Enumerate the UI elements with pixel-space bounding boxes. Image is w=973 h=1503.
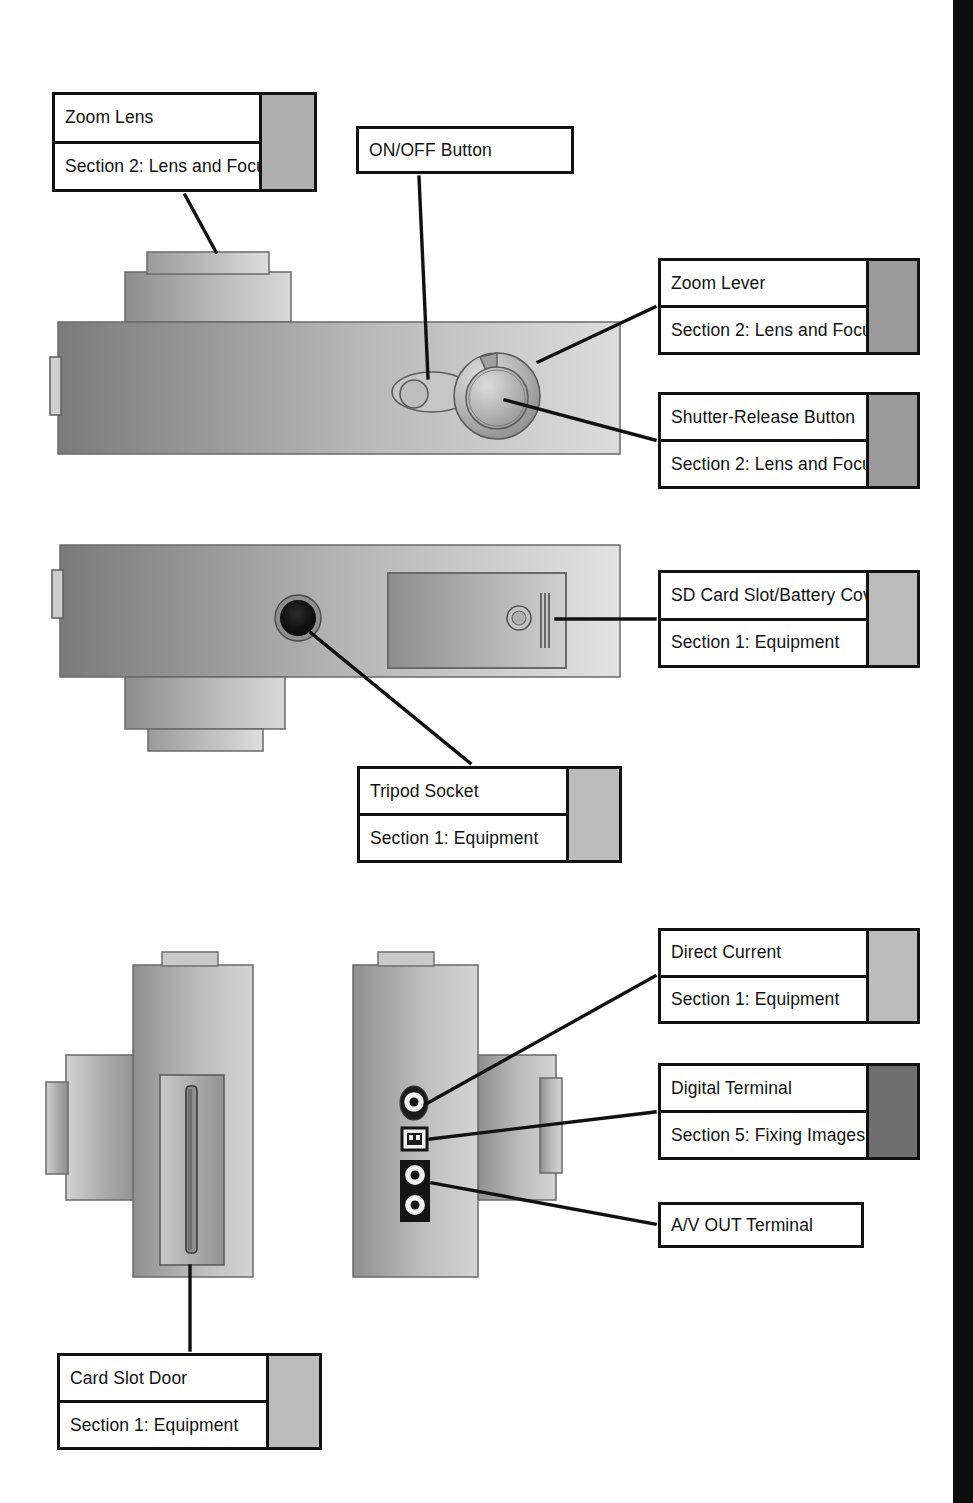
camera-left-side-view xyxy=(46,952,253,1277)
callout-rows: Digital TerminalSection 5: Fixing Images xyxy=(661,1066,866,1157)
callout-section: Section 2: Lens and Focusing xyxy=(661,308,866,352)
callout-rows: Tripod SocketSection 1: Equipment xyxy=(360,769,566,860)
callout-zoom-lens[interactable]: Zoom LensSection 2: Lens and Focusing xyxy=(52,92,317,192)
callout-title: Card Slot Door xyxy=(60,1356,266,1403)
leader-on-off-button xyxy=(419,177,428,378)
callout-on-off-button[interactable]: ON/OFF Button xyxy=(356,126,574,174)
callout-title: SD Card Slot/Battery Cover xyxy=(661,573,866,621)
camera-bottom-view xyxy=(52,545,620,751)
callout-shutter-release-button[interactable]: Shutter-Release ButtonSection 2: Lens an… xyxy=(658,392,920,489)
callout-title: Zoom Lens xyxy=(55,95,259,144)
callout-color-swatch xyxy=(866,573,917,665)
callout-title: Shutter-Release Button xyxy=(661,395,866,442)
callout-color-swatch xyxy=(866,395,917,486)
callout-title: Tripod Socket xyxy=(360,769,566,816)
callout-direct-current[interactable]: Direct CurrentSection 1: Equipment xyxy=(658,928,920,1024)
callout-rows: SD Card Slot/Battery CoverSection 1: Equ… xyxy=(661,573,866,665)
leader-zoom-lever xyxy=(538,307,655,362)
callout-title: Zoom Lever xyxy=(661,261,866,308)
callout-zoom-lever[interactable]: Zoom LeverSection 2: Lens and Focusing xyxy=(658,258,920,355)
callout-tripod-socket[interactable]: Tripod SocketSection 1: Equipment xyxy=(357,766,622,863)
leader-tripod-socket xyxy=(311,633,470,763)
callout-rows: ON/OFF Button xyxy=(359,129,571,171)
callout-color-swatch xyxy=(566,769,619,860)
leader-zoom-lens xyxy=(185,195,216,252)
callout-rows: Zoom LeverSection 2: Lens and Focusing xyxy=(661,261,866,352)
callout-section: Section 2: Lens and Focusing xyxy=(55,144,259,190)
callout-color-swatch xyxy=(266,1356,319,1447)
leader-av-out-terminal xyxy=(432,1183,655,1224)
diagram-page: Zoom LensSection 2: Lens and FocusingON/… xyxy=(0,0,973,1503)
callout-color-swatch xyxy=(866,1066,917,1157)
leader-direct-current xyxy=(426,976,655,1104)
callout-color-swatch xyxy=(866,261,917,352)
leader-lines xyxy=(0,0,973,1503)
callout-card-slot-door[interactable]: Card Slot DoorSection 1: Equipment xyxy=(57,1353,322,1450)
callout-title: A/V OUT Terminal xyxy=(661,1205,861,1245)
callout-section: Section 5: Fixing Images xyxy=(661,1113,866,1157)
callout-title: Direct Current xyxy=(661,931,866,978)
callout-rows: A/V OUT Terminal xyxy=(661,1205,861,1245)
callout-rows: Shutter-Release ButtonSection 2: Lens an… xyxy=(661,395,866,486)
callout-rows: Zoom LensSection 2: Lens and Focusing xyxy=(55,95,259,189)
callout-rows: Card Slot DoorSection 1: Equipment xyxy=(60,1356,266,1447)
leader-shutter-release xyxy=(505,400,655,440)
callout-digital-terminal[interactable]: Digital TerminalSection 5: Fixing Images xyxy=(658,1063,920,1160)
callout-av-out-terminal[interactable]: A/V OUT Terminal xyxy=(658,1202,864,1248)
callout-rows: Direct CurrentSection 1: Equipment xyxy=(661,931,866,1021)
callout-section: Section 1: Equipment xyxy=(661,621,866,666)
callout-color-swatch xyxy=(259,95,314,189)
callout-sd-card-slot-battery-cover[interactable]: SD Card Slot/Battery CoverSection 1: Equ… xyxy=(658,570,920,668)
callout-title: Digital Terminal xyxy=(661,1066,866,1113)
callout-title: ON/OFF Button xyxy=(359,129,571,171)
camera-illustrations xyxy=(0,0,973,1503)
camera-top-view xyxy=(50,252,620,454)
page-edge-strip xyxy=(953,0,973,1503)
callout-color-swatch xyxy=(866,931,917,1021)
camera-right-side-view xyxy=(353,952,562,1277)
callout-section: Section 1: Equipment xyxy=(661,978,866,1022)
callout-section: Section 2: Lens and Focusing xyxy=(661,442,866,486)
callout-section: Section 1: Equipment xyxy=(360,816,566,860)
callout-section: Section 1: Equipment xyxy=(60,1403,266,1447)
leader-digital-terminal xyxy=(430,1112,655,1139)
